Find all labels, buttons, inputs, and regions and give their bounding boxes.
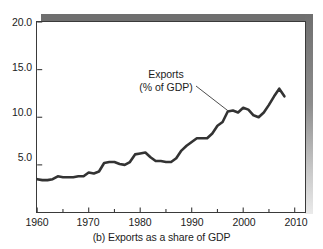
x-tick-label-1970: 1970 [68, 216, 108, 228]
figure-caption: (b) Exports as a share of GDP [0, 231, 323, 243]
y-tick-label-10: 10.0 [12, 106, 32, 118]
series-annotation-line1: Exports [130, 68, 202, 81]
y-tick-label-20: 20.0 [12, 16, 32, 28]
series-annotation: Exports (% of GDP) [130, 68, 202, 93]
y-tick-label-5: 5.0 [18, 151, 32, 163]
x-tick-label-2000: 2000 [224, 216, 264, 228]
y-tick-label-15: 15.0 [12, 61, 32, 73]
series-annotation-line2: (% of GDP) [130, 81, 202, 94]
chart-plot [0, 0, 323, 249]
figure-container: 20.0 15.0 10.0 5.0 1960 1970 1980 1990 2… [0, 0, 323, 249]
x-tick-label-1980: 1980 [120, 216, 160, 228]
x-tick-label-2010: 2010 [276, 216, 316, 228]
x-tick-label-1990: 1990 [172, 216, 212, 228]
x-tick-label-1960: 1960 [17, 216, 57, 228]
exports-line-series [37, 89, 284, 180]
